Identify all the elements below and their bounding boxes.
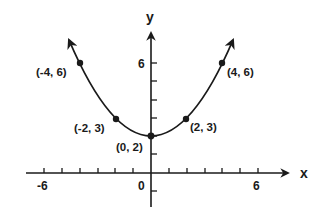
x-axis-label: x — [300, 165, 308, 181]
label-point-0-2: (0, 2) — [116, 141, 143, 153]
point-0-2 — [148, 133, 155, 140]
x-tick-label-6: 6 — [253, 179, 260, 193]
label-point-4-6: (4, 6) — [227, 66, 254, 78]
y-axis-label: y — [146, 9, 154, 25]
x-tick-label-0: 0 — [138, 179, 145, 193]
x-tick-label-neg6: -6 — [37, 179, 48, 193]
point-neg4-6 — [77, 60, 83, 66]
label-point-neg4-6: (-4, 6) — [36, 66, 67, 78]
point-neg2-3 — [113, 116, 119, 122]
point-2-3 — [183, 116, 189, 122]
label-point-2-3: (2, 3) — [190, 121, 217, 133]
label-point-neg2-3: (-2, 3) — [74, 122, 105, 134]
y-tick-label-6: 6 — [138, 57, 145, 71]
y-ticks — [151, 63, 157, 191]
graph-canvas: (-4, 6) (-2, 3) (0, 2) (2, 3) (4, 6) -6 … — [0, 0, 323, 217]
point-4-6 — [219, 60, 225, 66]
